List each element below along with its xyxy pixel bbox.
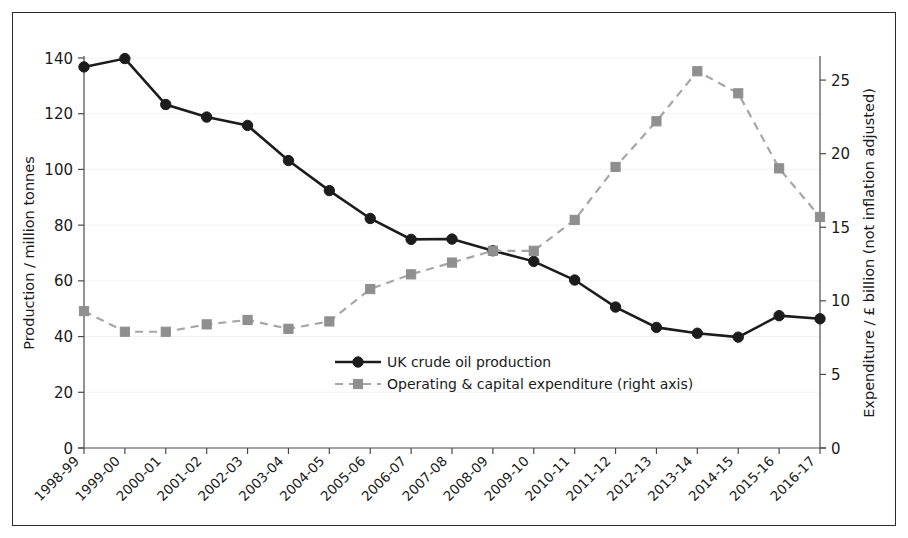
y-axis-right-tick-label: 20 [831, 145, 850, 163]
data-point-production [79, 62, 89, 72]
data-point-expenditure [325, 317, 334, 326]
y-axis-right-tick-label: 10 [831, 292, 850, 310]
data-point-expenditure [693, 67, 702, 76]
y-axis-left-tick-label: 120 [44, 105, 73, 123]
x-axis-tick-label: 2016-17 [767, 453, 818, 504]
data-point-expenditure [570, 215, 579, 224]
data-point-expenditure [120, 327, 129, 336]
data-point-expenditure [79, 307, 88, 316]
data-point-expenditure [611, 162, 620, 171]
data-point-production [283, 155, 293, 165]
data-point-expenditure [407, 270, 416, 279]
y-axis-left-tick-label: 20 [54, 384, 73, 402]
chart-svg: 020406080100120140Production / million t… [0, 0, 908, 538]
series-line-expenditure [84, 71, 820, 331]
data-point-expenditure [447, 258, 456, 267]
data-point-expenditure [734, 89, 743, 98]
data-point-production [365, 213, 375, 223]
plot-area: 020406080100120140Production / million t… [0, 0, 908, 538]
y-axis-left-tick-label: 60 [54, 272, 73, 290]
data-point-expenditure [529, 246, 538, 255]
y-axis-left-title: Production / million tonnes [21, 156, 37, 350]
data-point-production [774, 310, 784, 320]
data-point-production [733, 332, 743, 342]
y-axis-left-tick-label: 100 [44, 161, 73, 179]
data-point-production [120, 53, 130, 63]
chart-figure: 020406080100120140Production / million t… [0, 0, 908, 538]
legend-marker-production [353, 357, 363, 367]
y-axis-left-tick-label: 40 [54, 328, 73, 346]
data-point-production [447, 234, 457, 244]
y-axis-right-title: Expenditure / £ billion (not inflation a… [861, 88, 877, 418]
data-point-production [201, 112, 211, 122]
legend-label-expenditure: Operating & capital expenditure (right a… [387, 376, 693, 392]
data-point-production [610, 302, 620, 312]
data-point-production [324, 185, 334, 195]
data-point-expenditure [284, 324, 293, 333]
data-point-production [161, 99, 171, 109]
data-point-production [815, 314, 825, 324]
data-point-production [242, 120, 252, 130]
data-point-expenditure [775, 164, 784, 173]
legend-marker-expenditure [353, 379, 362, 388]
legend-label-production: UK crude oil production [387, 354, 551, 370]
data-point-production [692, 328, 702, 338]
data-point-production [651, 322, 661, 332]
y-axis-left-tick-label: 80 [54, 217, 73, 235]
data-point-expenditure [652, 117, 661, 126]
series-line-production [84, 59, 820, 338]
y-axis-left-tick-label: 140 [44, 50, 73, 68]
y-axis-right-tick-label: 0 [831, 440, 841, 458]
data-point-expenditure [815, 212, 824, 221]
data-point-production [406, 234, 416, 244]
data-point-expenditure [488, 246, 497, 255]
data-point-production [569, 275, 579, 285]
data-point-expenditure [202, 320, 211, 329]
data-point-expenditure [366, 284, 375, 293]
data-point-expenditure [161, 327, 170, 336]
y-axis-right-tick-label: 25 [831, 72, 850, 90]
data-point-expenditure [243, 315, 252, 324]
y-axis-right-tick-label: 5 [831, 366, 841, 384]
data-point-production [529, 256, 539, 266]
y-axis-right-tick-label: 15 [831, 219, 850, 237]
